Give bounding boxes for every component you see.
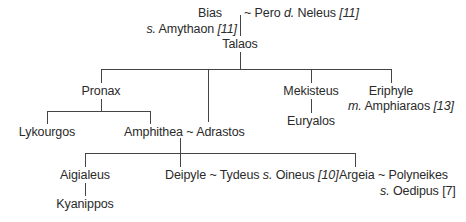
node-euryalos: Euryalos: [287, 114, 335, 129]
amphithea: Amphithea: [124, 125, 183, 139]
node-aigialeus: Aigialeus: [60, 168, 110, 183]
node-talaos: Talaos: [222, 37, 258, 52]
node-lykourgos: Lykourgos: [19, 125, 75, 140]
node-eriphyle: Eriphyle: [369, 84, 413, 99]
node-kyanippos: Kyanippos: [56, 197, 113, 212]
node-deipyle-tydeus: Deipyle ~ Tydeus s. Oineus [10]: [165, 168, 339, 183]
node-eriphyle-note: m. Amphiaraos [13]: [348, 99, 454, 114]
marriage-sign: ~: [186, 125, 193, 139]
node-bias: Bias: [198, 6, 222, 21]
node-amphithea-adrastos: Amphithea ~ Adrastos: [124, 125, 245, 140]
node-pero: ~ Pero d. Neleus [11]: [244, 6, 359, 21]
node-polyneikes-note: s. Oedipus [7]: [380, 184, 456, 199]
node-bias-note: s. Amythaon [11]: [146, 22, 237, 37]
adrastos: Adrastos: [196, 125, 245, 139]
marriage-sign: ~: [244, 6, 251, 20]
node-pronax: Pronax: [81, 84, 120, 99]
node-mekisteus: Mekisteus: [283, 84, 338, 99]
marriage-sign: ~: [209, 168, 216, 182]
node-argeia-polyneikes: Argeia ~ Polyneikes: [339, 168, 448, 183]
marriage-sign: ~: [378, 168, 385, 182]
bias-name: Bias: [198, 6, 222, 20]
